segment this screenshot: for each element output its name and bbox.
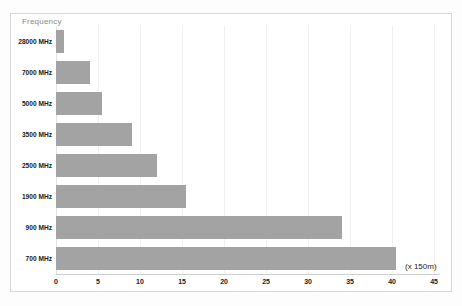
- x-tick-label: 30: [304, 278, 312, 285]
- category-label: 2500 MHz: [0, 150, 52, 181]
- bar: [56, 123, 132, 146]
- x-axis-unit-label: (x 150m): [405, 262, 437, 271]
- category-label: 900 MHz: [0, 212, 52, 243]
- category-label: 5000 MHz: [0, 88, 52, 119]
- plot-area: 28000 MHz7000 MHz5000 MHz3500 MHz2500 MH…: [56, 26, 440, 274]
- bar-series: 28000 MHz7000 MHz5000 MHz3500 MHz2500 MH…: [56, 26, 440, 274]
- bar: [56, 185, 186, 208]
- bar-row: 3500 MHz: [56, 119, 440, 150]
- x-tick-label: 10: [136, 278, 144, 285]
- bar-row: 5000 MHz: [56, 88, 440, 119]
- bar: [56, 30, 64, 53]
- x-tick-label: 20: [220, 278, 228, 285]
- category-label: 28000 MHz: [0, 26, 52, 57]
- bar-row: 2500 MHz: [56, 150, 440, 181]
- bar-row: 7000 MHz: [56, 57, 440, 88]
- x-tick-label: 25: [262, 278, 270, 285]
- x-tick-label: 0: [54, 278, 58, 285]
- bar-chart-figure: Frequency 28000 MHz7000 MHz5000 MHz3500 …: [0, 0, 462, 306]
- category-label: 3500 MHz: [0, 119, 52, 150]
- bar: [56, 154, 157, 177]
- bar-row: 700 MHz: [56, 243, 440, 274]
- category-label: 700 MHz: [0, 243, 52, 274]
- x-tick-label: 40: [388, 278, 396, 285]
- bar: [56, 216, 342, 239]
- x-tick-label: 15: [178, 278, 186, 285]
- bar: [56, 92, 102, 115]
- bar: [56, 61, 90, 84]
- x-tick-label: 45: [430, 278, 438, 285]
- bar-row: 28000 MHz: [56, 26, 440, 57]
- category-axis-title: Frequency: [22, 17, 62, 26]
- x-tick-label: 35: [346, 278, 354, 285]
- x-axis-line: [56, 274, 440, 275]
- bar-row: 1900 MHz: [56, 181, 440, 212]
- category-label: 1900 MHz: [0, 181, 52, 212]
- bar: [56, 247, 396, 270]
- category-label: 7000 MHz: [0, 57, 52, 88]
- bar-row: 900 MHz: [56, 212, 440, 243]
- x-tick-label: 5: [96, 278, 100, 285]
